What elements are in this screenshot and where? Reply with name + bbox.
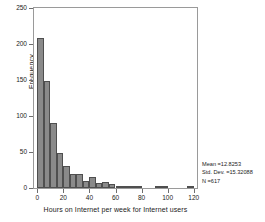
x-tick-mark bbox=[63, 189, 64, 193]
x-tick-label: 80 bbox=[138, 195, 145, 202]
x-tick-mark bbox=[37, 189, 38, 193]
stat-mean: Mean =12.8253 bbox=[202, 160, 264, 168]
histogram-figure: Frequency 050100150200250 02040608010012… bbox=[0, 0, 265, 222]
y-tick-label: 100 bbox=[16, 113, 27, 120]
y-tick-label: 50 bbox=[20, 149, 27, 156]
x-tick-mark bbox=[142, 189, 143, 193]
histogram-bar bbox=[44, 81, 51, 188]
x-tick-mark bbox=[89, 189, 90, 193]
histogram-bar bbox=[109, 184, 116, 188]
x-tick-label: 100 bbox=[162, 195, 173, 202]
stat-std-dev: Std. Dev. =15.32088 bbox=[202, 168, 264, 176]
histogram-bar bbox=[187, 186, 194, 188]
x-tick-mark bbox=[194, 189, 195, 193]
x-tick-label: 0 bbox=[35, 195, 39, 202]
y-tick-label: 200 bbox=[16, 41, 27, 48]
x-tick-label: 20 bbox=[60, 195, 67, 202]
x-axis-title: Hours on Internet per week for Internet … bbox=[33, 206, 198, 213]
histogram-bar bbox=[161, 186, 168, 188]
x-axis: 020406080100120 Hours on Internet per we… bbox=[0, 189, 265, 222]
stat-n: N =617 bbox=[202, 177, 264, 185]
histogram-bars bbox=[34, 8, 197, 188]
y-tick-label: 250 bbox=[16, 5, 27, 12]
histogram-bar bbox=[89, 177, 96, 188]
y-tick-label: 150 bbox=[16, 77, 27, 84]
statistics-annotation: Mean =12.8253 Std. Dev. =15.32088 N =617 bbox=[202, 160, 264, 185]
histogram-bar bbox=[63, 166, 70, 188]
x-tick-label: 120 bbox=[188, 195, 199, 202]
histogram-bar bbox=[135, 186, 142, 188]
x-tick-label: 40 bbox=[86, 195, 93, 202]
x-tick-label: 60 bbox=[112, 195, 119, 202]
x-tick-mark bbox=[116, 189, 117, 193]
x-tick-mark bbox=[168, 189, 169, 193]
